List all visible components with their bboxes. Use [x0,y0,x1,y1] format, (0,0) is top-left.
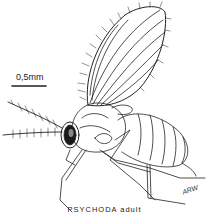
thorax [72,103,133,152]
wing [78,2,171,106]
figure-caption: PSYCHODA adult [0,205,209,214]
legs [60,130,205,212]
head [61,122,79,148]
antennae [3,100,62,138]
illustration [0,0,209,218]
psychoda-drawing [0,0,209,218]
scale-bar-label: 0,5mm [16,72,44,82]
